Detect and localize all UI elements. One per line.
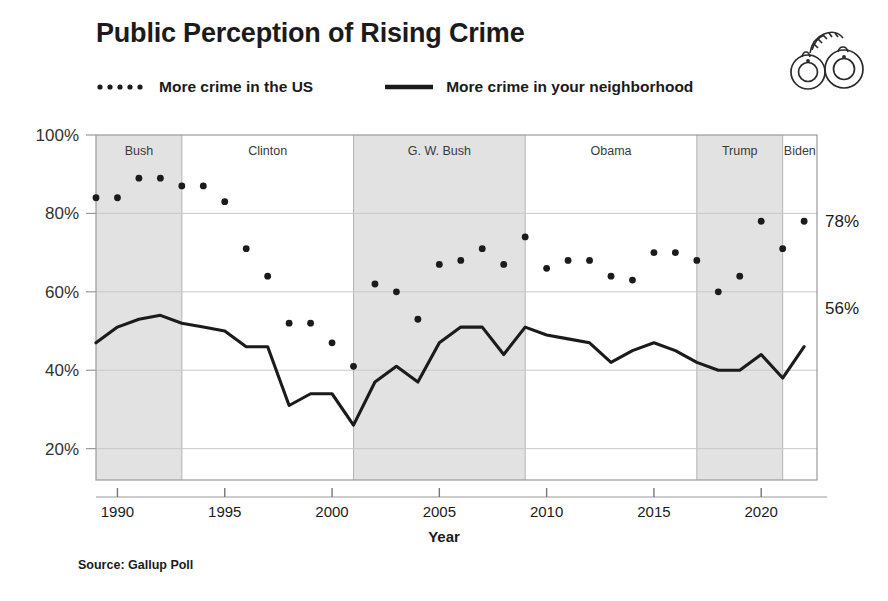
data-point (372, 281, 379, 288)
x-tick-label: 2015 (637, 503, 670, 520)
data-point (157, 175, 164, 182)
x-axis-title: Year (0, 528, 888, 545)
band-label: Trump (722, 144, 758, 158)
y-tick-label: 100% (36, 126, 79, 145)
data-point (608, 273, 615, 280)
data-point (329, 339, 336, 346)
data-point (693, 257, 700, 264)
endpoint-labels: 78%56% (825, 212, 859, 317)
band-g-w-bush (354, 135, 526, 480)
endpoint-label-us: 78% (825, 212, 859, 231)
band-label: Bush (125, 144, 154, 158)
data-point (543, 265, 550, 272)
data-point (522, 234, 529, 241)
data-point (565, 257, 572, 264)
band-label: Clinton (248, 144, 287, 158)
data-point (393, 288, 400, 295)
data-point (479, 245, 486, 252)
x-tick-label: 1995 (208, 503, 241, 520)
data-point (243, 245, 250, 252)
data-point (178, 183, 185, 190)
x-tick-label: 2000 (315, 503, 348, 520)
data-point (436, 261, 443, 268)
data-point (114, 194, 121, 201)
y-axis-labels: 20%40%60%80%100% (36, 126, 96, 459)
band-trump (697, 135, 783, 480)
band-label: Biden (784, 144, 816, 158)
data-point (286, 320, 293, 327)
data-point (350, 363, 357, 370)
data-point (136, 175, 143, 182)
data-point (500, 261, 507, 268)
data-point (221, 198, 228, 205)
data-point (629, 277, 636, 284)
y-tick-label: 60% (45, 283, 79, 302)
band-label: Obama (591, 144, 632, 158)
data-point (715, 288, 722, 295)
data-point (736, 273, 743, 280)
x-tick-label: 1990 (101, 503, 134, 520)
president-bands (96, 135, 783, 480)
chart-plot: BushClintonG. W. BushObamaTrumpBiden 20%… (0, 0, 888, 601)
y-tick-label: 80% (45, 204, 79, 223)
x-tick-label: 2010 (530, 503, 563, 520)
data-point (200, 183, 207, 190)
y-tick-label: 20% (45, 440, 79, 459)
data-point (672, 249, 679, 256)
source-note: Source: Gallup Poll (78, 558, 193, 572)
x-tick-label: 2005 (423, 503, 456, 520)
y-tick-label: 40% (45, 361, 79, 380)
data-point (307, 320, 314, 327)
data-point (801, 218, 808, 225)
data-point (586, 257, 593, 264)
band-bush (96, 135, 182, 480)
data-point (414, 316, 421, 323)
x-axis: 1990199520002005201020152020 (96, 488, 827, 520)
data-point (779, 245, 786, 252)
band-label: G. W. Bush (408, 144, 471, 158)
data-point (758, 218, 765, 225)
data-point (264, 273, 271, 280)
data-point (651, 249, 658, 256)
x-tick-label: 2020 (745, 503, 778, 520)
endpoint-label-neighborhood: 56% (825, 299, 859, 318)
chart-container: Public Perception of Rising Crime More c… (0, 0, 888, 601)
data-point (457, 257, 464, 264)
data-point (93, 194, 100, 201)
